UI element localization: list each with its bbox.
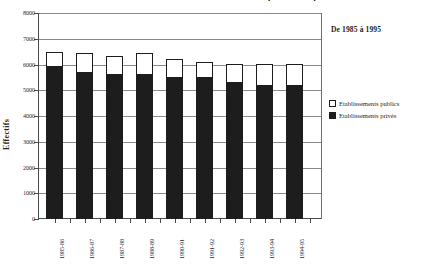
y-tick-label-wrap: 2000 — [0, 164, 35, 172]
x-tick-mark — [205, 219, 206, 223]
bar-stack — [286, 64, 303, 219]
y-tick-label-wrap: 3000 — [0, 138, 35, 146]
x-tick-mark-minor — [310, 219, 311, 223]
x-tick-mark-minor — [280, 219, 281, 223]
y-tick-label-wrap: 0 — [0, 215, 35, 223]
bar-segment-private — [196, 77, 213, 219]
swatch-public-icon — [329, 100, 336, 107]
x-tick-mark — [145, 219, 146, 223]
x-tick-label: 1987-88 — [118, 239, 125, 259]
bar-stack — [136, 53, 153, 219]
x-tick-mark-minor — [70, 219, 71, 223]
x-tick-label: 1993-94 — [268, 239, 275, 259]
x-tick-mark-minor — [100, 219, 101, 223]
x-tick-mark-minor — [160, 219, 161, 223]
bar-stack — [76, 53, 93, 219]
bar-segment-public — [196, 62, 213, 77]
bar-segment-private — [286, 85, 303, 219]
legend-item: Etablissements privés — [329, 112, 399, 119]
y-tick-label-wrap: 1000 — [0, 189, 35, 197]
x-tick-mark — [115, 219, 116, 223]
bar-stack — [166, 59, 183, 219]
y-tick-label: 0 — [32, 215, 35, 222]
bar-segment-private — [226, 82, 243, 219]
x-tick-label: 1986-87 — [88, 239, 95, 259]
y-tick-label: 2000 — [23, 164, 35, 171]
x-tick-mark-minor — [190, 219, 191, 223]
legend-item: Etablissements publics — [329, 100, 399, 107]
bar-segment-public — [46, 52, 63, 65]
x-tick-label: 1991-92 — [208, 239, 215, 259]
swatch-private-icon — [329, 112, 336, 119]
x-tick-mark — [265, 219, 266, 223]
bar-segment-public — [286, 64, 303, 85]
bar-segment-public — [226, 64, 243, 82]
x-tick-mark-minor — [130, 219, 131, 223]
x-tick-mark — [295, 219, 296, 223]
bar-segment-public — [136, 53, 153, 73]
y-tick-label: 5000 — [23, 86, 35, 93]
y-tick-label: 1000 — [23, 189, 35, 196]
y-tick-label: 7000 — [23, 35, 35, 42]
y-tick-label: 6000 — [23, 61, 35, 68]
y-tick-label-wrap: 4000 — [0, 112, 35, 120]
bar-stack — [106, 56, 123, 219]
period-annotation: De 1985 à 1995 — [331, 25, 381, 34]
x-tick-label: 1994-95 — [298, 239, 305, 259]
bar-segment-public — [106, 56, 123, 74]
chart-title: Evolution des effectifs des établissemen… — [0, 0, 423, 1]
bar-stack — [256, 64, 273, 219]
chart-legend: Etablissements publicsEtablissements pri… — [329, 100, 399, 124]
bar-segment-private — [46, 66, 63, 219]
x-tick-mark — [175, 219, 176, 223]
y-tick-label-wrap: 5000 — [0, 86, 35, 94]
x-tick-mark-minor — [220, 219, 221, 223]
figure-container: Evolution des effectifs des établissemen… — [0, 0, 423, 264]
x-tick-label: 1990-91 — [178, 239, 185, 259]
bars-group — [38, 13, 322, 219]
bar-stack — [46, 52, 63, 219]
bar-segment-public — [256, 64, 273, 85]
y-tick-label: 8000 — [23, 9, 35, 16]
bar-segment-private — [76, 72, 93, 219]
bar-segment-public — [166, 59, 183, 77]
y-tick-label-wrap: 6000 — [0, 61, 35, 69]
legend-label: Etablissements privés — [339, 112, 396, 119]
bar-segment-private — [166, 77, 183, 219]
y-tick-label: 3000 — [23, 138, 35, 145]
legend-label: Etablissements publics — [339, 100, 399, 107]
bar-segment-private — [136, 74, 153, 219]
x-tick-label: 1992-93 — [238, 239, 245, 259]
y-tick-label-wrap: 8000 — [0, 9, 35, 17]
bar-segment-private — [256, 85, 273, 219]
bar-stack — [196, 62, 213, 219]
bar-segment-private — [106, 74, 123, 219]
x-tick-label: 1988-89 — [148, 239, 155, 259]
x-tick-mark — [235, 219, 236, 223]
y-tick-label-wrap: 7000 — [0, 35, 35, 43]
x-tick-label: 1985-86 — [58, 239, 65, 259]
bar-stack — [226, 64, 243, 219]
bar-segment-public — [76, 53, 93, 72]
y-tick-label: 4000 — [23, 112, 35, 119]
x-tick-mark-minor — [250, 219, 251, 223]
x-tick-mark — [85, 219, 86, 223]
x-tick-mark — [55, 219, 56, 223]
